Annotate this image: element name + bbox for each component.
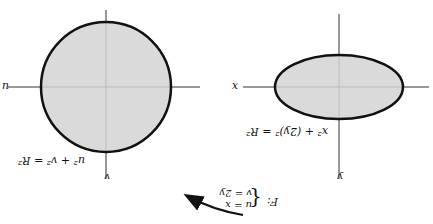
diagram-canvas: x y x² + (2y)² = R² F: { u = x v = 2y u … [0, 0, 433, 224]
u-axis-label: u [2, 80, 9, 93]
diagram: x y x² + (2y)² = R² F: { u = x v = 2y u … [0, 0, 433, 224]
circle [41, 22, 171, 152]
map-eq1: u = x [225, 200, 252, 211]
x-axis-label: x [231, 80, 238, 93]
circle-equation: u² + v² = R² [18, 154, 85, 167]
v-axis-label: v [104, 172, 110, 183]
mapping: F: { u = x v = 2y [187, 187, 279, 215]
map-eq2: v = 2y [219, 188, 252, 199]
y-axis-label: y [337, 172, 344, 183]
ellipse-equation: x² + (2y)² = R² [246, 125, 328, 138]
ellipse-panel: x y x² + (2y)² = R² [231, 14, 429, 183]
circle-panel: u v u² + v² = R² [2, 10, 200, 183]
ellipse [275, 55, 403, 119]
map-label: F: [267, 195, 279, 208]
